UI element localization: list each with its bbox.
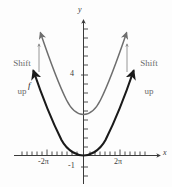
graph-figure: Shift up Shift up f y x -2π 2π 4 -1 [0, 0, 172, 187]
shift-up-label-right-line2: up [133, 87, 165, 96]
x-tick-label-neg-2pi: -2π [38, 158, 49, 166]
y-axis [81, 20, 88, 184]
x-tick-label-2pi: 2π [114, 158, 122, 166]
y-axis-label: y [78, 6, 82, 14]
shift-up-label-left-line1: Shift [6, 59, 38, 68]
shift-up-label-left: Shift up [6, 40, 38, 116]
shift-up-label-right: Shift up [133, 40, 165, 116]
y-tick-label-neg-1: -1 [68, 162, 75, 170]
y-tick-label-4: 4 [70, 70, 74, 78]
shift-up-label-right-line1: Shift [133, 59, 165, 68]
function-label-f: f [28, 81, 31, 90]
y-axis-ticks [81, 29, 88, 176]
shift-up-label-left-line2: up [6, 87, 38, 96]
x-axis-label: x [163, 149, 167, 157]
